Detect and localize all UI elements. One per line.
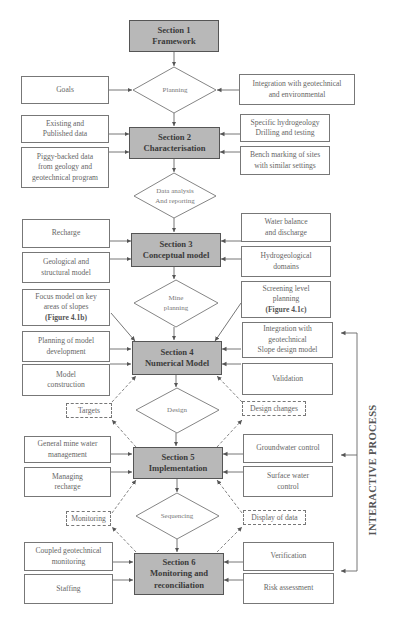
input-label: Staffing — [56, 584, 80, 595]
input-risk-assessment: Risk assessment — [243, 573, 334, 604]
input-recharge: Recharge — [22, 219, 110, 248]
section-2-characterisation: Section 2 Characterisation — [129, 127, 220, 159]
input-surface-water-control: Surface watercontrol — [243, 466, 333, 497]
input-bench-marking: Bench marking of siteswith similar setti… — [240, 146, 330, 175]
decision-label: planning — [164, 303, 189, 313]
input-label: Existing and — [46, 119, 84, 130]
decision-data-analysis: Data analysis And reporting — [140, 186, 210, 206]
input-model-construction: Modelconstruction — [22, 364, 110, 396]
feedback-monitoring: Monitoring — [66, 511, 111, 526]
input-label: Groundwater control — [256, 443, 319, 454]
input-goals: Goals — [21, 76, 109, 104]
input-label: Bench marking of sites — [250, 150, 320, 161]
input-label: Focus model on key — [35, 292, 96, 303]
input-label: Geological and — [43, 257, 89, 268]
decision-label: Design — [167, 405, 187, 415]
decision-label: And reporting — [155, 196, 194, 206]
section-6-subtitle-2: reconciliation — [154, 580, 204, 592]
feedback-label: Design changes — [250, 404, 298, 413]
figure-4-1c-link[interactable]: (Figure 4.1c) — [265, 305, 306, 316]
input-label: Coupled geotechnical — [35, 546, 101, 557]
section-2-subtitle: Characterisation — [143, 143, 205, 155]
decision-label: Data analysis — [156, 186, 194, 196]
input-hydrogeological-domains: Hydrogeologicaldomains — [241, 246, 331, 277]
input-general-mine-water: General mine watermanagement — [24, 436, 111, 463]
section-3-title: Section 3 — [159, 239, 192, 251]
input-label: Model — [56, 370, 76, 381]
input-label: Screening level — [262, 284, 309, 295]
section-3-subtitle: Conceptual model — [143, 250, 210, 262]
input-label: Managing — [52, 472, 83, 483]
input-label: Piggy-backed data — [37, 152, 93, 163]
decision-mine-planning: Mine planning — [141, 293, 211, 313]
section-4-title: Section 4 — [160, 347, 193, 359]
section-1-subtitle: Framework — [152, 36, 195, 48]
decision-planning: Planning — [140, 84, 210, 96]
section-6-title: Section 6 — [162, 557, 195, 569]
input-label: Validation — [272, 374, 303, 385]
input-label: areas of slopes — [44, 302, 89, 313]
input-label: General mine water — [38, 439, 98, 450]
input-label: Integration with — [263, 324, 312, 335]
decision-sequencing: Sequencing — [142, 510, 212, 522]
input-label: structural model — [41, 268, 91, 279]
input-label: and discharge — [265, 228, 307, 239]
input-screening-level-planning: Screening levelplanning(Figure 4.1c) — [241, 281, 331, 318]
feedback-label: Display of data — [251, 513, 297, 522]
input-integration-slope-design: Integration withgeotechnicalSlope design… — [242, 322, 333, 358]
feedback-display-of-data: Display of data — [243, 510, 306, 525]
input-label: and environmental — [269, 90, 326, 101]
section-6-subtitle: Monitoring and — [150, 568, 208, 580]
input-label: from geology and — [38, 162, 92, 173]
input-focus-model: Focus model on keyareas of slopes(Figure… — [22, 289, 110, 326]
input-label: construction — [47, 380, 85, 391]
input-label: Integration with geotechnical — [253, 79, 342, 90]
input-coupled-monitoring: Coupled geotechnicalmonitoring — [24, 542, 113, 571]
feedback-design-changes: Design changes — [242, 401, 306, 416]
input-label: Drilling and testing — [255, 128, 314, 139]
input-label: Slope design model — [258, 345, 318, 356]
input-label: Hydrogeological — [260, 251, 311, 262]
section-5-title: Section 5 — [161, 452, 194, 464]
section-5-implementation: Section 5 Implementation — [133, 447, 223, 479]
decision-label: Planning — [163, 85, 188, 95]
feedback-targets: Targets — [66, 403, 112, 418]
input-label: planning — [273, 294, 300, 305]
input-specific-hydrogeology: Specific hydrogeologyDrilling and testin… — [240, 114, 330, 142]
input-label: Verification — [271, 551, 307, 562]
feedback-label: Monitoring — [71, 514, 106, 523]
section-6-monitoring: Section 6 Monitoring and reconciliation — [134, 553, 224, 595]
input-label: control — [277, 482, 299, 493]
input-label: geotechnical program — [32, 173, 98, 184]
input-validation: Validation — [242, 363, 333, 395]
input-existing-data: Existing andPublished data — [21, 115, 109, 143]
decision-label: Sequencing — [161, 511, 194, 521]
input-label: domains — [273, 262, 299, 273]
section-1-title: Section 1 — [157, 25, 190, 37]
input-verification: Verification — [243, 542, 334, 571]
decision-label: Mine — [169, 293, 184, 303]
input-managing-recharge: Managingrecharge — [24, 467, 111, 497]
section-4-numerical-model: Section 4 Numerical Model — [132, 341, 222, 375]
input-water-balance: Water balanceand discharge — [241, 213, 331, 242]
input-geological-model: Geological andstructural model — [22, 252, 110, 283]
input-staffing: Staffing — [24, 574, 113, 604]
input-piggy-backed-data: Piggy-backed datafrom geology andgeotech… — [21, 147, 109, 188]
input-label: Planning of model — [38, 336, 94, 347]
figure-4-1b-link[interactable]: (Figure 4.1b) — [45, 313, 87, 324]
interactive-process-label: INTERACTIVE PROCESS — [367, 405, 378, 536]
input-label: Water balance — [264, 217, 307, 228]
input-label: Recharge — [52, 228, 81, 239]
input-integration-geo-env: Integration with geotechnicaland environ… — [239, 74, 355, 105]
input-label: monitoring — [52, 557, 86, 568]
feedback-label: Targets — [78, 406, 100, 415]
input-label: geotechnical — [268, 335, 306, 346]
section-1-framework: Section 1 Framework — [129, 20, 219, 52]
input-planning-model-development: Planning of modeldevelopment — [22, 331, 110, 362]
input-label: recharge — [55, 482, 81, 493]
input-label: management — [48, 450, 87, 461]
input-label: Surface water — [267, 471, 309, 482]
input-groundwater-control: Groundwater control — [243, 434, 333, 463]
input-label: Specific hydrogeology — [251, 118, 320, 129]
decision-design: Design — [142, 404, 212, 416]
